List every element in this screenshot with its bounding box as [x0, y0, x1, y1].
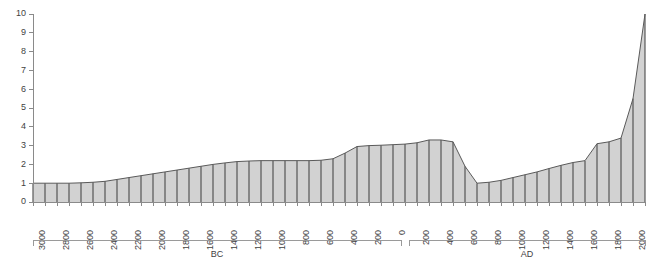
y-tick-label: 3: [21, 140, 26, 150]
bars-layer: [33, 14, 645, 202]
y-tick-label: 5: [21, 102, 26, 112]
x-tick-label: 200: [373, 230, 383, 245]
y-tick-label: 8: [21, 46, 26, 56]
y-tick-label: 7: [21, 65, 26, 75]
population-timeline-area-chart: 012345678910 300028002600240022002000180…: [0, 0, 660, 272]
y-tick-label: 6: [21, 84, 26, 94]
chart-figure: 012345678910 300028002600240022002000180…: [0, 0, 660, 272]
y-tick-label: 0: [21, 196, 26, 206]
y-tick-label: 1: [21, 178, 26, 188]
y-tick-label: 2: [21, 159, 26, 169]
x-tick-label: 600: [325, 230, 335, 245]
era-bracket-label-bc: BC: [211, 249, 224, 259]
x-tick-label: 800: [493, 230, 503, 245]
x-tick-label: 600: [469, 230, 479, 245]
x-tick-label: 0: [397, 230, 407, 235]
era-brackets: BCAD: [33, 240, 645, 259]
area-fill: [33, 14, 645, 202]
y-tick-label: 9: [21, 27, 26, 37]
x-tick-label: 800: [301, 230, 311, 245]
x-tick-label: 200: [421, 230, 431, 245]
era-bracket-label-ad: AD: [521, 249, 534, 259]
x-tick-label: 400: [349, 230, 359, 245]
y-tick-label: 10: [16, 8, 26, 18]
y-tick-labels: 012345678910: [16, 8, 26, 206]
y-tick-label: 4: [21, 121, 26, 131]
x-tick-label: 400: [445, 230, 455, 245]
